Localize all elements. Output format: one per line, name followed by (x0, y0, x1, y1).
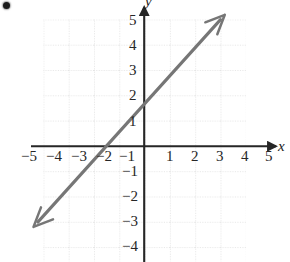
y-tick-label--3: −3 (122, 214, 138, 229)
y-tick-label--1: −1 (122, 164, 138, 179)
x-tick-label-3: 3 (216, 149, 224, 164)
x-tick-label--1: −1 (119, 149, 135, 164)
x-tick-label-1: 1 (166, 149, 174, 164)
y-tick-label-3: 3 (129, 63, 137, 78)
y-tick-label--4: −4 (122, 239, 138, 254)
coordinate-plane-figure: −5 −4 −3 −2 −1 1 2 3 4 5 5 4 3 2 1 −1 −2… (0, 0, 290, 262)
y-tick-label-5: 5 (129, 13, 137, 28)
x-tick-label--4: −4 (46, 149, 62, 164)
x-tick-label-4: 4 (241, 149, 249, 164)
y-tick-label-1: 1 (129, 114, 137, 129)
x-tick-label-2: 2 (191, 149, 199, 164)
y-tick-label-2: 2 (129, 88, 137, 103)
graph-canvas (0, 0, 290, 262)
y-tick-label-4: 4 (129, 38, 137, 53)
x-tick-label--5: −5 (21, 149, 37, 164)
x-tick-label-5: 5 (265, 149, 273, 164)
x-axis-label: x (278, 138, 285, 155)
x-tick-label--2: −2 (96, 149, 112, 164)
x-tick-label--3: −3 (71, 149, 87, 164)
y-tick-label--2: −2 (122, 189, 138, 204)
y-axis-label: y (145, 0, 152, 10)
